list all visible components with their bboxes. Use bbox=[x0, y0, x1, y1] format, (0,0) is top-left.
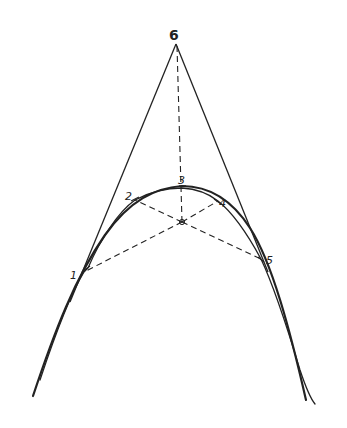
label-6: 6 bbox=[169, 27, 179, 43]
geometry-diagram: 6 1 2 3 4 5 bbox=[0, 0, 347, 428]
tangent-line-right bbox=[176, 44, 268, 272]
label-4: 4 bbox=[219, 197, 226, 210]
label-3: 3 bbox=[178, 174, 185, 187]
tangent-line-left bbox=[70, 44, 176, 302]
label-1: 1 bbox=[70, 269, 77, 282]
dashed-construction-lines bbox=[84, 46, 261, 272]
label-2: 2 bbox=[125, 190, 132, 203]
label-5: 5 bbox=[266, 254, 273, 267]
